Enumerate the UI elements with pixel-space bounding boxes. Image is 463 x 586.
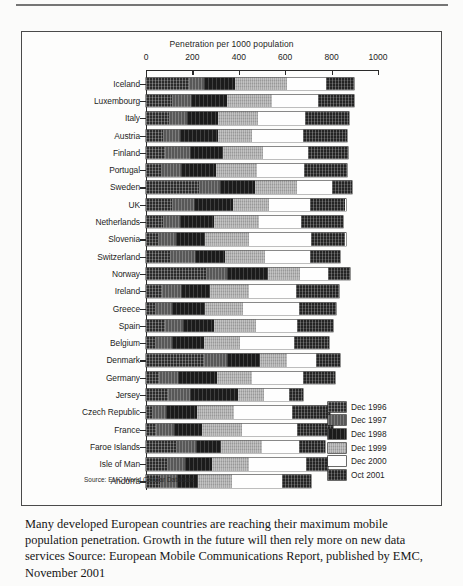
stacked-bar[interactable] (146, 441, 325, 453)
stacked-bar[interactable] (146, 354, 340, 366)
bar-segment-dec-1999 (235, 77, 287, 89)
bar-segment-dec-1998 (204, 77, 235, 89)
bar-row-label-italy: Italy (22, 113, 140, 123)
bar-segment-dec-2000 (262, 441, 299, 453)
bar-segment-dec-1997 (176, 441, 196, 453)
bar-row: Switzerland (22, 248, 441, 265)
legend-item-dec-1998[interactable]: Dec 1998 (328, 427, 432, 441)
stacked-bar[interactable] (146, 181, 352, 193)
stacked-bar[interactable] (146, 199, 346, 211)
stacked-bar[interactable] (146, 406, 330, 418)
bar-row: UK (22, 196, 441, 213)
stacked-bar[interactable] (146, 112, 349, 124)
stacked-bar[interactable] (146, 320, 333, 332)
bar-segment-dec-1996 (146, 320, 165, 332)
legend-item-dec-1996[interactable]: Dec 1996 (328, 400, 432, 414)
bar-segment-dec-1999 (218, 112, 259, 124)
stacked-bar[interactable] (146, 147, 348, 159)
bar-segment-dec-1997 (169, 112, 186, 124)
stacked-bar[interactable] (146, 129, 347, 141)
stacked-bar[interactable] (146, 250, 340, 262)
bar-segment-dec-2000 (249, 285, 295, 297)
bar-segment-dec-1998 (187, 112, 218, 124)
bar-row-label-norway: Norway (22, 269, 140, 279)
legend-swatch-dec-2000 (328, 456, 346, 466)
bar-row: Iceland (22, 75, 441, 92)
bar-row-label-uk: UK (22, 200, 140, 210)
legend-label: Dec 1998 (351, 429, 387, 439)
bar-segment-dec-1998 (194, 199, 233, 211)
bar-row: Spain (22, 317, 441, 334)
stacked-bar[interactable] (146, 95, 354, 107)
bar-segment-dec-1996 (146, 112, 169, 124)
stacked-bar[interactable] (146, 371, 335, 383)
stacked-bar[interactable] (146, 164, 347, 176)
bar-segment-oct-2001 (326, 77, 354, 89)
stacked-bar[interactable] (146, 77, 354, 89)
bar-segment-dec-2000 (234, 406, 292, 418)
bar-segment-dec-1998 (174, 423, 202, 435)
bar-segment-dec-1998 (178, 371, 216, 383)
stacked-bar[interactable] (146, 216, 343, 228)
bar-row-label-netherlands: Netherlands (22, 217, 140, 227)
bar-segment-dec-1996 (146, 389, 168, 401)
stacked-bar[interactable] (146, 302, 336, 314)
bar-segment-dec-1999 (198, 475, 232, 487)
bar-row: Norway (22, 265, 441, 282)
x-tick-label-1000: 1000 (369, 52, 388, 62)
chart-legend: Dec 1996Dec 1997Dec 1998Dec 1999Dec 2000… (328, 400, 432, 482)
legend-item-dec-1999[interactable]: Dec 1999 (328, 441, 432, 455)
bar-segment-dec-1998 (181, 285, 210, 297)
bar-segment-dec-1997 (172, 95, 192, 107)
chart-source-note: Source: EMC World Cellular Database (84, 476, 195, 483)
bar-segment-dec-1998 (180, 129, 218, 141)
document-page: Penetration per 1000 population 02004006… (0, 0, 463, 586)
bar-segment-dec-1999 (238, 389, 265, 401)
stacked-bar[interactable] (146, 458, 328, 470)
bar-segment-dec-1996 (146, 233, 158, 245)
bar-segment-oct-2001 (310, 250, 340, 262)
bar-segment-dec-1999 (221, 441, 262, 453)
bar-segment-dec-1998 (190, 389, 238, 401)
stacked-bar[interactable] (146, 337, 329, 349)
bar-segment-oct-2001 (292, 406, 330, 418)
x-tick-label-800: 800 (325, 52, 339, 62)
bar-segment-dec-1998 (172, 337, 204, 349)
legend-item-oct-2001[interactable]: Oct 2001 (328, 468, 432, 482)
bar-segment-dec-1997 (165, 147, 191, 159)
stacked-bar[interactable] (146, 389, 303, 401)
legend-swatch-dec-1999 (328, 443, 346, 453)
x-tick-label-0: 0 (144, 52, 149, 62)
bar-row: Greece (22, 300, 441, 317)
bar-segment-dec-1999 (212, 458, 249, 470)
bar-segment-dec-2000 (249, 458, 306, 470)
bar-segment-dec-1999 (202, 423, 243, 435)
x-axis-tick-labels: 02004006008001000 (22, 52, 441, 64)
bar-row-label-czech-republic: Czech Republic (22, 407, 140, 417)
legend-label: Oct 2001 (351, 470, 385, 480)
bar-segment-oct-2001 (311, 233, 346, 245)
bar-segment-dec-1996 (146, 354, 204, 366)
legend-item-dec-2000[interactable]: Dec 2000 (328, 454, 432, 468)
bar-segment-dec-1997 (163, 129, 179, 141)
legend-item-dec-1997[interactable]: Dec 1997 (328, 414, 432, 428)
bar-segment-dec-1996 (146, 129, 163, 141)
bar-segment-dec-1997 (189, 77, 204, 89)
stacked-bar[interactable] (146, 233, 346, 245)
bar-row: Belgium (22, 334, 441, 351)
x-tick-label-400: 400 (232, 52, 246, 62)
chart-figure: Penetration per 1000 population 02004006… (21, 31, 442, 506)
bar-segment-oct-2001 (305, 112, 349, 124)
stacked-bar[interactable] (146, 423, 333, 435)
stacked-bar[interactable] (146, 285, 339, 297)
bar-segment-dec-1998 (185, 458, 212, 470)
x-tick-label-600: 600 (278, 52, 292, 62)
bar-segment-dec-1999 (214, 320, 256, 332)
stacked-bar[interactable] (146, 268, 350, 280)
bar-segment-dec-1998 (183, 320, 214, 332)
bar-row-label-isle-of-man: Isle of Man (22, 459, 140, 469)
bar-segment-dec-1997 (155, 337, 171, 349)
legend-label: Dec 2000 (351, 456, 387, 466)
bar-segment-dec-2000 (300, 268, 328, 280)
bar-segment-dec-1998 (181, 164, 216, 176)
